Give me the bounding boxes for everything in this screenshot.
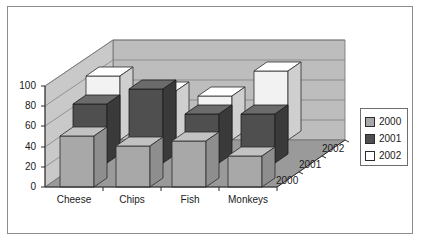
y-tick-label-20: 20 <box>12 162 36 172</box>
chart-legend: 2000 2001 2002 <box>360 108 408 166</box>
y-tick-label-0: 0 <box>12 182 36 192</box>
chart-frame: 100 80 60 40 20 0 Cheese Chips Fish Monk… <box>7 6 413 234</box>
z-depth-label-2002: 2002 <box>322 144 344 154</box>
legend-label-2000: 2000 <box>379 117 401 127</box>
legend-swatch-2000 <box>365 117 375 127</box>
z-depth-label-2001: 2001 <box>299 160 321 170</box>
z-depth-label-2000: 2000 <box>276 176 298 186</box>
y-tick-label-80: 80 <box>12 101 36 111</box>
bar-cheese-2000 <box>60 127 107 187</box>
y-tick-label-100: 100 <box>12 81 36 91</box>
y-tick-label-60: 60 <box>12 121 36 131</box>
legend-item-2002[interactable]: 2002 <box>365 147 404 164</box>
legend-item-2000[interactable]: 2000 <box>365 113 404 130</box>
bar-fish-2000 <box>172 132 219 187</box>
x-category-label-monkeys: Monkeys <box>219 195 277 205</box>
legend-swatch-2001 <box>365 134 375 144</box>
legend-label-2001: 2001 <box>379 134 401 144</box>
x-tick-marks <box>103 187 277 191</box>
bar-monkeys-2000 <box>228 147 275 187</box>
legend-label-2002: 2002 <box>379 151 401 161</box>
bar-chips-2000 <box>116 137 163 187</box>
legend-item-2001[interactable]: 2001 <box>365 130 404 147</box>
y-tick-marks <box>41 86 45 187</box>
x-category-label-cheese: Cheese <box>45 195 103 205</box>
chart-plot-area: 100 80 60 40 20 0 Cheese Chips Fish Monk… <box>8 7 414 235</box>
y-tick-label-40: 40 <box>12 142 36 152</box>
x-category-label-fish: Fish <box>161 195 219 205</box>
legend-swatch-2002 <box>365 151 375 161</box>
x-category-label-chips: Chips <box>103 195 161 205</box>
